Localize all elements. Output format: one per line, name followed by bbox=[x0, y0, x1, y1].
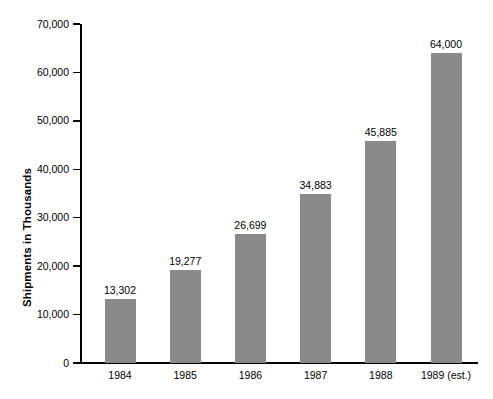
y-axis-tick-label: 40,000 bbox=[1, 164, 69, 175]
y-axis-tick-label-wrap: 70,000 bbox=[0, 19, 69, 30]
x-axis-tick-label: 1989 (est.) bbox=[406, 370, 486, 381]
bar-chart: Shipments in Thousands 010,00020,00030,0… bbox=[0, 0, 493, 399]
y-axis-tick-label: 10,000 bbox=[1, 309, 69, 320]
y-axis-tick-label: 30,000 bbox=[1, 212, 69, 223]
plot-area: 13,30219,27726,69934,88345,88564,000 bbox=[80, 24, 478, 363]
y-axis-tick-label-wrap: 20,000 bbox=[0, 261, 69, 272]
y-axis-tick bbox=[73, 169, 80, 171]
y-axis-title: Shipments in Thousands bbox=[18, 0, 36, 399]
y-axis-tick-label-wrap: 60,000 bbox=[0, 67, 69, 78]
bar bbox=[365, 141, 396, 363]
y-axis-tick-label: 0 bbox=[1, 358, 69, 369]
y-axis-tick bbox=[73, 362, 80, 364]
bar bbox=[431, 53, 462, 363]
bar-value-label: 64,000 bbox=[416, 39, 476, 50]
bar bbox=[300, 194, 331, 363]
bar-value-label: 19,277 bbox=[155, 256, 215, 267]
bar-value-label: 26,699 bbox=[220, 220, 280, 231]
bar-value-label: 45,885 bbox=[351, 127, 411, 138]
bar bbox=[170, 270, 201, 363]
y-axis-tick bbox=[73, 314, 80, 316]
y-axis-tick-label-wrap: 10,000 bbox=[0, 309, 69, 320]
y-axis-title-label: Shipments in Thousands bbox=[21, 168, 33, 307]
bar bbox=[235, 234, 266, 363]
y-axis-tick-label: 20,000 bbox=[1, 261, 69, 272]
y-axis-tick-label: 50,000 bbox=[1, 115, 69, 126]
y-axis-tick bbox=[73, 23, 80, 25]
y-axis-tick bbox=[73, 265, 80, 267]
bar bbox=[105, 299, 136, 363]
y-axis-tick-label-wrap: 50,000 bbox=[0, 115, 69, 126]
y-axis-tick-label: 60,000 bbox=[1, 67, 69, 78]
y-axis-tick bbox=[73, 72, 80, 74]
bar-value-label: 34,883 bbox=[286, 180, 346, 191]
y-axis-tick-label-wrap: 0 bbox=[0, 358, 69, 369]
y-axis-tick-label-wrap: 30,000 bbox=[0, 212, 69, 223]
y-axis-tick-label: 70,000 bbox=[1, 19, 69, 30]
bar-value-label: 13,302 bbox=[90, 285, 150, 296]
y-axis-tick-label-wrap: 40,000 bbox=[0, 164, 69, 175]
y-axis-tick bbox=[73, 120, 80, 122]
y-axis-tick bbox=[73, 217, 80, 219]
